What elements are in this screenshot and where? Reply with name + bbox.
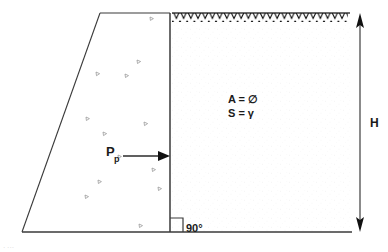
backfill-texture [170,13,352,232]
caption-remnant: · ··· [3,244,14,252]
angle-label: 90° [186,222,203,234]
force-label-subscript: p [114,154,120,164]
diagram-canvas: P p A = ∅ S = γ 90° H · ··· [0,0,388,252]
passive-wedge-region [22,13,170,232]
ground-surface-hatching [172,13,348,22]
soil-property-line-2: S = γ [228,107,255,119]
height-label: H [370,116,379,130]
soil-property-line-1: A = ∅ [228,93,258,105]
height-dimension-line [356,13,364,232]
passive-earth-pressure-diagram: P p A = ∅ S = γ 90° H · ··· [0,0,388,252]
